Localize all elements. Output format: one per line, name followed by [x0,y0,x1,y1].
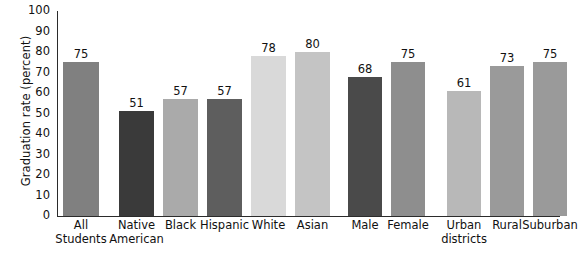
bar: 80 [295,52,330,216]
y-axis-tick-50: 50 [35,108,50,119]
bar: 51 [119,111,154,216]
x-axis-label-line: Female [377,219,439,233]
y-axis-tick-90: 90 [35,26,50,37]
bar-value-label: 57 [173,85,188,97]
bar-value-label: 68 [358,63,373,75]
bar-value-label: 57 [217,85,232,97]
x-axis-label: AllStudents [49,219,113,246]
y-axis-tick-100: 100 [28,5,50,16]
x-axis-label-line: Students [49,233,113,247]
bar: 75 [391,62,425,216]
x-axis-label-line: districts [433,233,495,247]
bar: 75 [533,62,567,216]
plot-area: 7551575778806875617375 [57,11,560,216]
bar-value-label: 75 [74,48,89,60]
y-axis-tick-80: 80 [35,46,50,57]
y-axis-tick-labels: 1009080706050403020100 [0,0,54,258]
y-axis-tick-70: 70 [35,67,50,78]
y-axis-tick-60: 60 [35,87,50,98]
bar: 61 [447,91,481,216]
y-axis-tick-30: 30 [35,149,50,160]
x-axis-label-line: American [105,233,168,247]
bar-value-label: 80 [305,38,320,50]
y-axis-tick-20: 20 [35,169,50,180]
bar-value-label: 51 [129,97,144,109]
x-axis-label-line: All [49,219,113,233]
x-axis-label-line: Suburban [519,219,581,233]
bar-value-label: 73 [500,52,515,64]
y-axis-tick-40: 40 [35,128,50,139]
bar: 57 [207,99,242,216]
bar-value-label: 75 [543,48,558,60]
bar: 73 [490,66,524,216]
x-axis-label: Suburban [519,219,581,233]
bar: 78 [251,56,286,216]
bar-value-label: 78 [261,42,276,54]
bar-value-label: 61 [457,77,472,89]
bar: 68 [348,77,382,216]
bar: 57 [163,99,198,216]
x-axis-label: Female [377,219,439,233]
x-axis-category-labels: AllStudentsNativeAmericanBlackHispanicWh… [57,219,560,258]
bar: 75 [63,62,99,216]
bar-value-label: 75 [401,48,416,60]
y-axis-tick-10: 10 [35,190,50,201]
